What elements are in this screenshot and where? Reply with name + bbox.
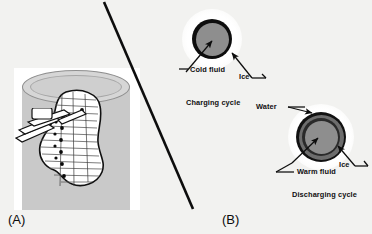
- label-cold-fluid: Cold fluid: [190, 66, 225, 73]
- label-warm-fluid: Warm fluid: [297, 168, 336, 175]
- label-ice-discharging: Ice: [339, 161, 350, 168]
- figure-container: (A): [0, 0, 372, 234]
- label-charging-cycle: Charging cycle: [186, 99, 240, 106]
- label-ice-charging: Ice: [239, 73, 250, 80]
- panel-b-label: (B): [222, 213, 239, 226]
- label-discharging-cycle: Discharging cycle: [292, 191, 357, 198]
- label-water: Water: [256, 103, 277, 110]
